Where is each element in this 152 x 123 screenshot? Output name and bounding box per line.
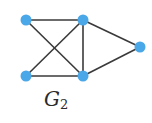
- graph-diagram: [0, 0, 152, 123]
- edge-E-C: [83, 47, 140, 76]
- node-D: [21, 71, 32, 82]
- graph-label: G2: [44, 89, 68, 111]
- node-B: [78, 15, 89, 26]
- graph-label-subscript: 2: [60, 97, 68, 112]
- node-C: [135, 42, 146, 53]
- graph-edges: [26, 20, 140, 76]
- node-E: [78, 71, 89, 82]
- node-A: [21, 15, 32, 26]
- graph-label-main: G: [44, 87, 60, 111]
- edge-B-C: [83, 20, 140, 47]
